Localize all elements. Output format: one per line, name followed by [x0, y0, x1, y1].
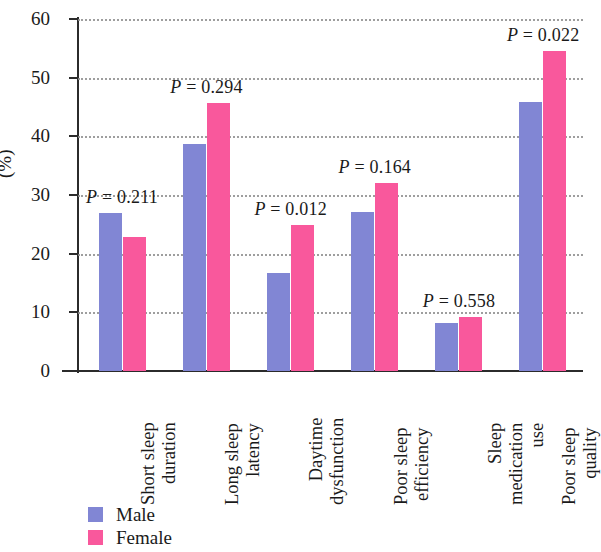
x-label-line: Sleep — [485, 423, 506, 505]
x-label-line: latency — [243, 423, 264, 505]
y-tick-label: 50 — [0, 68, 50, 88]
y-tick-label: 0 — [0, 361, 50, 381]
bar-group — [183, 19, 230, 371]
bar-male-1 — [99, 213, 122, 371]
x-label-line: use — [527, 423, 548, 505]
bar-group — [519, 19, 566, 371]
bar-male-2 — [183, 144, 206, 371]
y-tick-label: 40 — [0, 126, 50, 146]
bar-male-6 — [519, 102, 542, 371]
p-value-label-5: P = 0.558 — [423, 291, 495, 312]
x-label-line: dysfunction — [327, 418, 348, 505]
x-label-line: Poor sleep — [391, 427, 412, 505]
y-tick-30: 30 — [0, 185, 78, 205]
y-tick-label: 10 — [0, 302, 50, 322]
x-label-line: Short sleep — [138, 422, 159, 505]
p-value-number: = 0.022 — [518, 25, 579, 45]
gridline-40 — [78, 136, 583, 139]
x-label-line: quality — [580, 427, 601, 505]
y-axis-title: (%) — [0, 150, 16, 178]
y-tick-60: 60 — [0, 9, 78, 29]
legend-item-male[interactable]: Male — [88, 503, 172, 526]
p-symbol: P — [423, 291, 434, 311]
x-label-line: duration — [159, 422, 180, 505]
p-value-number: = 0.294 — [181, 77, 242, 97]
bar-female-6 — [543, 51, 566, 371]
legend-swatch-female — [88, 530, 103, 545]
gridline-20 — [78, 254, 583, 257]
y-tick-10: 10 — [0, 302, 78, 322]
y-tick-20: 20 — [0, 244, 78, 264]
gridline-50 — [78, 78, 583, 81]
bar-female-2 — [207, 103, 230, 371]
bar-male-4 — [351, 212, 374, 371]
gridline-10 — [78, 312, 583, 315]
y-tick-label: 30 — [0, 185, 50, 205]
bar-female-4 — [375, 183, 398, 371]
p-symbol: P — [339, 157, 350, 177]
plot-area: P = 0.211P = 0.294P = 0.012P = 0.164P = … — [78, 19, 583, 371]
y-tick-50: 50 — [0, 68, 78, 88]
legend-label-female: Female — [116, 527, 172, 548]
p-symbol: P — [254, 199, 265, 219]
bar-female-5 — [459, 317, 482, 371]
p-value-label-4: P = 0.164 — [339, 157, 411, 178]
p-value-label-2: P = 0.294 — [170, 77, 242, 98]
legend-label-male: Male — [116, 504, 155, 525]
x-label-line: medication — [506, 423, 527, 505]
legend: MaleFemale — [88, 503, 172, 549]
x-label-line: Long sleep — [222, 423, 243, 505]
y-tick-label: 20 — [0, 244, 50, 264]
legend-swatch-male — [88, 507, 103, 522]
bar-group — [351, 19, 398, 371]
p-value-number: = 0.211 — [97, 187, 158, 207]
x-label-line: Daytime — [306, 418, 327, 505]
y-tick-label: 60 — [0, 9, 50, 29]
p-value-number: = 0.558 — [434, 291, 495, 311]
legend-item-female[interactable]: Female — [88, 526, 172, 549]
p-symbol: P — [507, 25, 518, 45]
gridline-60 — [78, 19, 583, 22]
y-axis-ticks: 0102030405060 — [0, 0, 78, 552]
p-symbol: P — [86, 187, 97, 207]
p-value-number: = 0.164 — [350, 157, 411, 177]
x-label-line: efficiency — [412, 427, 433, 505]
p-value-number: = 0.012 — [266, 199, 327, 219]
y-tick-40: 40 — [0, 126, 78, 146]
bar-male-3 — [267, 273, 290, 371]
x-axis-category-labels: Short sleepdurationLong sleeplatencyDayt… — [78, 375, 583, 510]
p-symbol: P — [170, 77, 181, 97]
p-value-label-6: P = 0.022 — [507, 25, 579, 46]
bar-group — [267, 19, 314, 371]
x-label-line: Poor sleep — [559, 427, 580, 505]
p-value-label-1: P = 0.211 — [86, 187, 158, 208]
bar-male-5 — [435, 323, 458, 371]
p-value-label-3: P = 0.012 — [254, 199, 326, 220]
bar-female-3 — [291, 225, 314, 371]
bar-female-1 — [123, 237, 146, 371]
bar-group — [435, 19, 482, 371]
